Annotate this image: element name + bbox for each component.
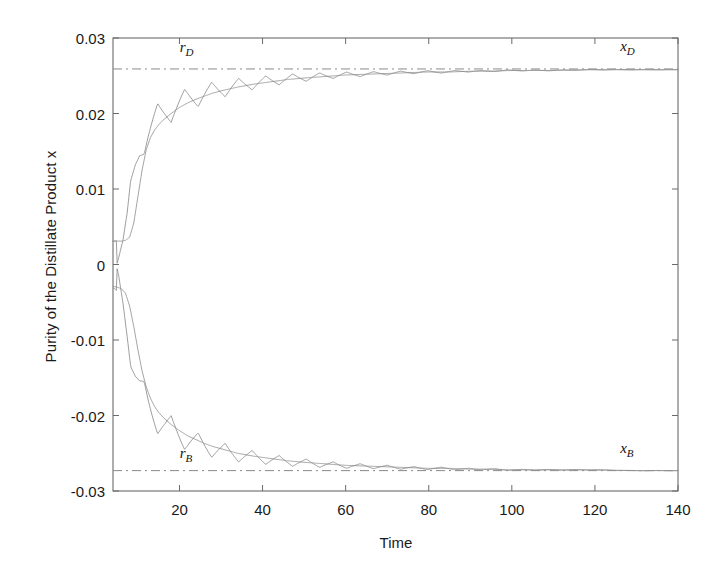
plot-canvas: [0, 0, 723, 566]
chart-figure: Purity of the Distillate Product x Time …: [0, 0, 723, 566]
data-series: [113, 69, 678, 470]
reference-lines: [113, 69, 678, 471]
